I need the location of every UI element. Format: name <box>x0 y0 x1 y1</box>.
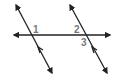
angle-label-1: 1 <box>33 24 39 35</box>
parallel-line-right <box>70 5 107 73</box>
parallel-lines-diagram: 1 2 3 <box>0 0 118 78</box>
parallel-line-left <box>16 5 52 73</box>
angle-label-3: 3 <box>81 37 87 48</box>
angle-label-2: 2 <box>74 24 80 35</box>
